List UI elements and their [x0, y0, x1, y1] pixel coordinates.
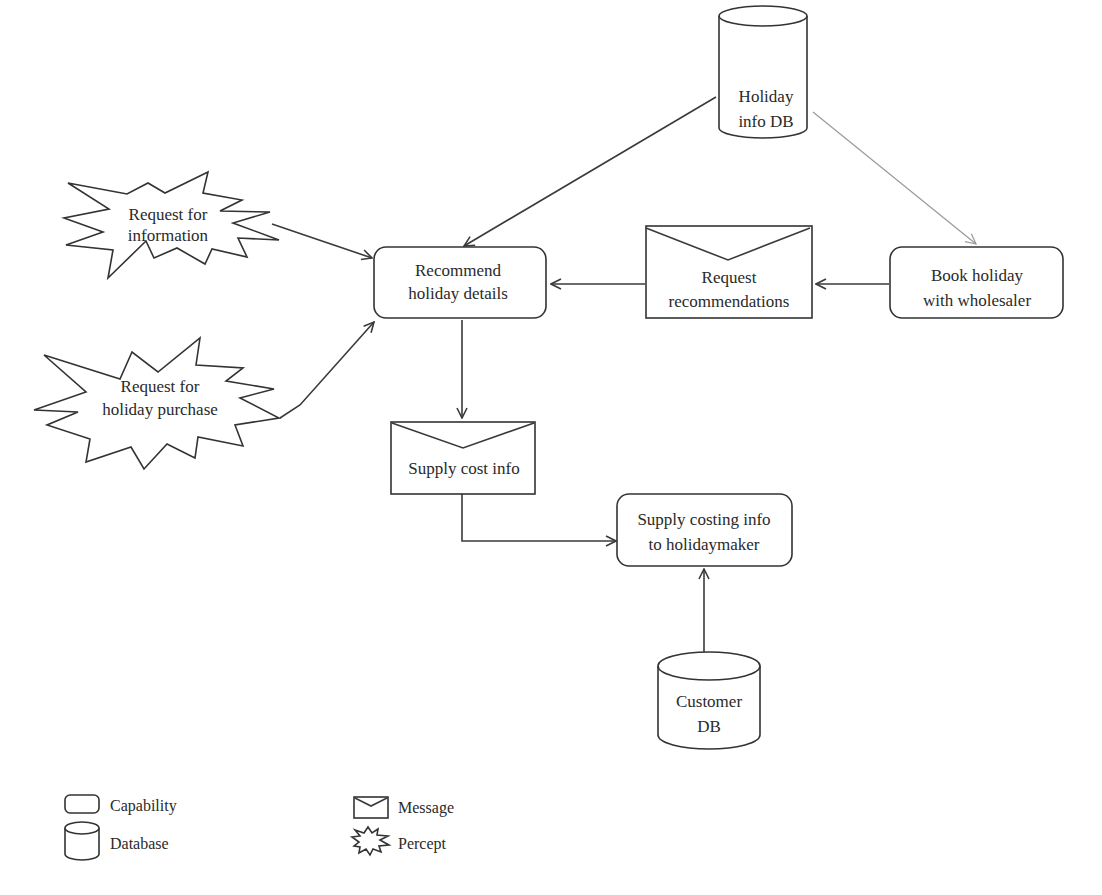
- database-top: [658, 652, 760, 680]
- node-label-line2: holiday purchase: [102, 400, 218, 419]
- node-request-for-holiday-purchase[interactable]: Request for holiday purchase: [34, 338, 279, 469]
- node-label-line1: Request for: [121, 377, 200, 396]
- node-holiday-info-db[interactable]: Holiday info DB: [719, 6, 807, 138]
- node-label-line1: Customer: [676, 692, 742, 711]
- node-label-line1: Request for: [129, 205, 208, 224]
- legend: Capability Database Message Percept: [65, 795, 454, 860]
- node-label-line1: Supply costing info: [637, 510, 770, 529]
- node-label-line2: recommendations: [669, 292, 790, 311]
- node-label-line1: Holiday: [739, 87, 794, 106]
- node-label-line1: Supply cost info: [408, 459, 519, 478]
- edge-info-request-to-recommend: [272, 224, 372, 258]
- legend-item-capability: Capability: [65, 795, 177, 815]
- edge-purchase-request-to-recommend: [280, 322, 374, 418]
- edge-holiday-db-to-recommend: [464, 97, 716, 246]
- node-label-line2: info DB: [738, 112, 793, 131]
- legend-item-percept: Percept: [352, 827, 447, 855]
- node-label-line1: Request: [702, 268, 757, 287]
- edge-supply-cost-to-supply-costing: [462, 494, 616, 541]
- node-request-for-information[interactable]: Request for information: [64, 172, 279, 278]
- node-label-line2: to holidaymaker: [649, 535, 760, 554]
- node-label-line2: information: [128, 226, 209, 245]
- legend-label: Percept: [398, 835, 447, 853]
- node-supply-costing-info-to-holidaymaker[interactable]: Supply costing info to holidaymaker: [617, 494, 792, 566]
- node-label-line1: Book holiday: [931, 266, 1024, 285]
- capability-box: [617, 494, 792, 566]
- node-customer-db[interactable]: Customer DB: [658, 652, 760, 749]
- node-request-recommendations[interactable]: Request recommendations: [646, 226, 812, 318]
- capability-icon: [65, 795, 99, 813]
- node-recommend-holiday-details[interactable]: Recommend holiday details: [374, 247, 546, 318]
- legend-item-database: Database: [65, 822, 169, 860]
- node-label-line2: with wholesaler: [923, 291, 1031, 310]
- node-label-line1: Recommend: [415, 261, 501, 280]
- database-top: [719, 6, 807, 26]
- edges: [272, 97, 976, 654]
- edge-holiday-db-to-book: [813, 112, 976, 244]
- diagram-canvas: Holiday info DB Request for information …: [0, 0, 1102, 895]
- message-envelope-icon: [391, 422, 535, 494]
- node-book-holiday-with-wholesaler[interactable]: Book holiday with wholesaler: [890, 247, 1063, 318]
- node-label-line2: DB: [697, 717, 721, 736]
- percept-starburst-icon: [352, 827, 389, 855]
- node-supply-cost-info[interactable]: Supply cost info: [391, 422, 535, 494]
- legend-label: Database: [110, 835, 169, 852]
- capability-box: [374, 247, 546, 318]
- database-top: [65, 822, 99, 834]
- legend-item-message: Message: [354, 797, 454, 818]
- legend-label: Message: [398, 799, 454, 817]
- node-label-line2: holiday details: [408, 284, 508, 303]
- legend-label: Capability: [110, 797, 177, 815]
- percept-starburst-icon: [64, 172, 279, 278]
